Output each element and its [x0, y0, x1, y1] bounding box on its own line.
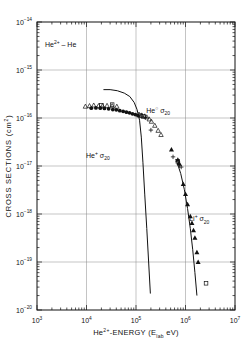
y-tick-label: 10−15: [16, 65, 32, 73]
xaxis-energy: -ENERGY (E: [110, 328, 157, 337]
marker-filled-triangle: [183, 192, 188, 196]
an-sub: 20: [204, 219, 210, 225]
y-tick-label: 10−19: [16, 257, 32, 265]
tick-mantissa: 10: [16, 259, 24, 266]
y-tick-label: 10−18: [16, 209, 32, 217]
tick-mantissa: 10: [131, 317, 139, 324]
tick-exponent: 5: [139, 316, 142, 321]
x-tick-label: 107: [230, 316, 241, 324]
tick-exponent: 6: [188, 316, 191, 321]
marker-filled-triangle: [191, 228, 196, 232]
tick-mantissa: 10: [16, 163, 24, 170]
an-elem: He: [146, 107, 155, 114]
an-elem: He: [86, 152, 95, 159]
marker-filled-circle: [107, 107, 111, 111]
open-square-data: [100, 103, 208, 285]
x-axis-title: He2+-ENERGY (Elab eV): [93, 327, 179, 339]
tick-exponent: −17: [24, 161, 32, 166]
tick-exponent: −14: [24, 17, 32, 22]
tick-exponent: −18: [24, 209, 32, 214]
tick-exponent: 3: [40, 316, 43, 321]
marker-open-triangle: [115, 104, 119, 108]
y-axis-title: CROSS SECTIONS (cm2): [3, 115, 13, 218]
an-rest: – He: [60, 41, 77, 48]
marker-open-square: [204, 281, 208, 285]
xaxis-lab: lab: [156, 333, 164, 339]
tick-mantissa: 10: [81, 317, 89, 324]
tick-mantissa: 10: [16, 307, 24, 314]
plot-svg: 10310410510610710−2010−1910−1810−1710−16…: [0, 0, 250, 347]
marker-filled-triangle: [192, 235, 197, 239]
marker-filled-circle: [89, 106, 93, 110]
x-tick-label: 104: [81, 316, 92, 324]
marker-filled-triangle: [185, 202, 190, 206]
marker-open-triangle: [105, 103, 109, 107]
tick-mantissa: 10: [180, 317, 188, 324]
tick-mantissa: 10: [16, 67, 24, 74]
marker-filled-triangle: [181, 182, 186, 186]
tick-exponent: −19: [24, 257, 32, 262]
marker-filled-circle: [121, 109, 125, 113]
tick-exponent: 7: [238, 316, 241, 321]
marker-open-triangle: [156, 128, 160, 132]
heplus-sigma20-label: He+ σ20: [86, 150, 110, 161]
gridlines: [37, 22, 235, 310]
reaction-label: He2+ – He: [45, 39, 76, 48]
marker-filled-circle: [111, 108, 115, 112]
tick-mantissa: 10: [32, 317, 40, 324]
tick-mantissa: 10: [16, 19, 24, 26]
marker-filled-circle: [94, 106, 98, 110]
yaxis-main: CROSS SECTIONS (cm: [4, 121, 13, 217]
he0-sigma20-label: He○ σ20: [146, 105, 170, 116]
xaxis-ev: eV): [164, 328, 179, 337]
heplus-sigma20-theory-curve: [103, 90, 150, 294]
y-tick-label: 10−17: [16, 161, 32, 169]
an-sub: 20: [104, 155, 110, 161]
marker-filled-triangle: [169, 147, 174, 151]
tick-mantissa: 10: [16, 115, 24, 122]
marker-filled-circle: [136, 114, 140, 118]
an-he: He: [45, 41, 54, 48]
filled-triangle-data: [169, 147, 201, 264]
x-tick-label: 106: [180, 316, 191, 324]
marker-open-triangle: [153, 123, 157, 127]
figure-container: 10310410510610710−2010−1910−1810−1710−16…: [0, 0, 250, 347]
marker-filled-circle: [114, 108, 118, 112]
x-tick-label: 105: [131, 316, 142, 324]
tick-mantissa: 10: [16, 211, 24, 218]
y-tick-label: 10−14: [16, 17, 32, 25]
x-tick-label: 103: [32, 316, 43, 324]
liplus-sigma20-theory-curve: [176, 159, 197, 296]
tick-exponent: 4: [89, 316, 92, 321]
tick-exponent: −15: [24, 65, 32, 70]
marker-filled-triangle: [196, 260, 201, 264]
tick-exponent: −20: [24, 305, 32, 310]
y-tick-label: 10−16: [16, 113, 32, 121]
marker-filled-triangle: [194, 250, 199, 254]
yaxis-close: ): [4, 115, 13, 118]
y-tick-label: 10−20: [16, 305, 32, 313]
tick-exponent: −16: [24, 113, 32, 118]
tick-mantissa: 10: [230, 317, 238, 324]
marker-filled-circle: [118, 109, 122, 113]
an-sub: 20: [164, 110, 170, 116]
xaxis-he: He: [93, 328, 103, 337]
marker-filled-circle: [125, 110, 129, 114]
marker-open-triangle: [159, 132, 163, 136]
